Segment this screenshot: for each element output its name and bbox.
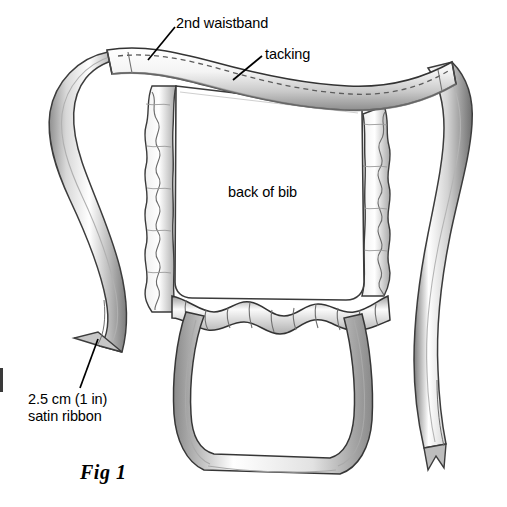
lower-ribbon-loop [174, 312, 373, 474]
label-satin-ribbon: 2.5 cm (1 in) satin ribbon [28, 391, 107, 425]
right-ruffle [362, 106, 390, 296]
figure-page: 2nd waistband tacking back of bib 2.5 cm… [0, 0, 507, 507]
scan-edge-artifact [0, 368, 3, 392]
figure-caption: Fig 1 [80, 461, 126, 484]
bib-apron-illustration [0, 0, 507, 507]
right-ribbon-tie [414, 62, 472, 470]
left-ruffle [145, 86, 176, 312]
label-2nd-waistband: 2nd waistband [176, 15, 268, 32]
label-tacking: tacking [265, 46, 310, 63]
left-ribbon-tie [49, 52, 126, 352]
label-back-of-bib: back of bib [228, 184, 297, 201]
ribbon-leader-line [80, 339, 98, 388]
